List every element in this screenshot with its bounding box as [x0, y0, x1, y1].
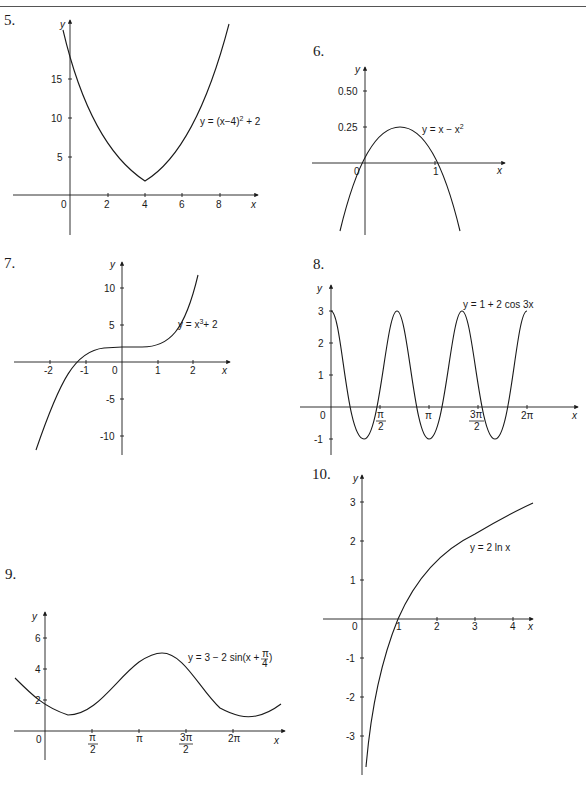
- equation-label: y = (x−4)2 + 2: [200, 115, 261, 127]
- x-tick-label: 1: [433, 166, 439, 177]
- equation-label: y = x − x2: [422, 123, 464, 135]
- graph-10: 0 1 2 3 4 3 2 1 -1 -2 -3 x y y = 2 ln x: [323, 473, 534, 775]
- x-tick-label: 1: [155, 365, 161, 376]
- y-tick-label: -1: [346, 653, 355, 664]
- x-tick-label: 4: [142, 199, 148, 210]
- parabola-curve: [340, 127, 460, 231]
- equation-close-paren: ): [269, 652, 272, 663]
- x-tick-label: π: [425, 410, 432, 421]
- x-tick-label: -2: [44, 365, 53, 376]
- x-tick-label-den: 2: [378, 421, 384, 432]
- y-tick-label: 5: [109, 320, 115, 331]
- x-axis-label: x: [250, 199, 257, 210]
- y-axis-label: y: [109, 259, 116, 270]
- y-tick-label: -10: [100, 431, 115, 442]
- y-axis-label: y: [354, 64, 361, 75]
- graph-9: 0 π 2 π 3π 2 2π 2 4 6 x y y = 3 − 2 sin(…: [14, 611, 285, 760]
- y-tick-label: 4: [35, 664, 41, 675]
- y-tick-label: 10: [51, 113, 63, 124]
- x-tick-label: 2: [190, 365, 196, 376]
- x-axis-label: x: [221, 365, 228, 376]
- x-tick-label-num: π: [89, 732, 96, 743]
- y-tick-label: 0.50: [338, 86, 358, 97]
- x-ticks: [68, 79, 220, 197]
- cubic-curve: [36, 275, 198, 450]
- y-tick-label: 1: [350, 575, 356, 586]
- equation-label: y = 2 ln x: [470, 542, 510, 553]
- y-axis-label: y: [316, 283, 323, 294]
- x-tick-label: 2π: [228, 733, 241, 744]
- x-axis-label: x: [273, 735, 280, 746]
- x-tick-label-den: 2: [90, 744, 96, 755]
- x-axis-label: x: [571, 410, 578, 421]
- y-tick-label: 6: [35, 633, 41, 644]
- y-tick-label: -5: [106, 394, 115, 405]
- y-axis-label: y: [352, 473, 359, 484]
- y-axis-label: y: [59, 19, 66, 30]
- y-tick-label: 3: [350, 497, 356, 508]
- y-tick-label: 3: [318, 306, 324, 317]
- equation-label: y = 3 − 2 sin(x +: [188, 652, 260, 663]
- graph-5: 0 2 4 6 8 5 10 15 x y y = (x−4)2 + 2: [13, 19, 261, 235]
- x-axis-label: x: [496, 165, 503, 176]
- y-tick-label: 10: [104, 283, 116, 294]
- x-axis-label: x: [527, 621, 534, 632]
- y-tick-label: 2: [350, 536, 356, 547]
- x-tick-label: 4: [510, 621, 516, 632]
- equation-label: y = x3+ 2: [178, 318, 218, 330]
- x-tick-label: 0: [352, 621, 358, 632]
- graphs-canvas: 0 2 4 6 8 5 10 15 x y y = (x−4)2 + 2 0 1…: [0, 0, 586, 789]
- x-tick-label: 0: [112, 365, 118, 376]
- x-tick-label-den: 2: [474, 421, 480, 432]
- graph-8: 0 π 2 π 3π 2 2π 3 2 1 -1 x y y = 1 + 2 c…: [300, 283, 578, 455]
- y-tick-label: 0.25: [338, 122, 358, 133]
- x-tick-label: 0: [36, 734, 42, 745]
- x-tick-label: 3: [472, 621, 478, 632]
- x-tick-label-den: 2: [183, 744, 189, 755]
- x-tick-label-num: π: [377, 409, 384, 420]
- y-tick-label: 2: [318, 338, 324, 349]
- x-tick-label: 2π: [521, 410, 534, 421]
- y-tick-label: -3: [346, 731, 355, 742]
- graph-7: -2 -1 0 1 2 10 5 -5 -10 x y y = x3+ 2: [14, 259, 230, 455]
- x-tick-label: 2: [104, 199, 110, 210]
- x-tick-label: 8: [216, 199, 222, 210]
- x-tick-label: 6: [179, 199, 185, 210]
- x-tick-label: 0: [320, 410, 326, 421]
- y-tick-label: -2: [346, 692, 355, 703]
- x-tick-label-num: 3π: [180, 732, 193, 743]
- x-tick-label: -1: [80, 365, 89, 376]
- parabola-curve: [63, 24, 229, 181]
- y-axis-label: y: [31, 611, 38, 622]
- x-tick-label: 0: [61, 199, 67, 210]
- y-tick-label: 1: [318, 370, 324, 381]
- y-tick-label: -1: [314, 434, 323, 445]
- graph-6: 0 1 0.25 0.50 x y y = x − x2: [312, 64, 505, 235]
- x-tick-label: π: [136, 733, 143, 744]
- equation-frac-den: 4: [262, 658, 268, 669]
- x-tick-label-num: 3π: [470, 409, 483, 420]
- equation-label: y = 1 + 2 cos 3x: [463, 299, 534, 310]
- x-tick-label: 2: [434, 621, 440, 632]
- y-tick-label: 15: [51, 74, 63, 85]
- y-tick-label: 5: [57, 152, 63, 163]
